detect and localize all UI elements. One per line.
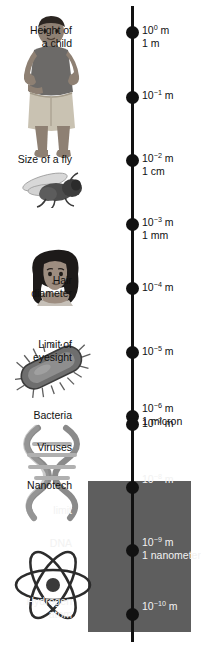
tick-label-left-dna: DNA	[50, 537, 72, 550]
power-label: 10−6 m	[142, 402, 182, 415]
power-label: 10−5 m	[142, 345, 174, 358]
tick-dot	[126, 481, 139, 494]
tick-dot	[126, 418, 139, 431]
tick-label-left-bacteria: Bacteria	[33, 409, 72, 422]
tick-label-left-nanotech-limit: Nanotech limit	[27, 466, 72, 516]
free-label-viruses: Viruses	[37, 441, 72, 454]
tick-dot	[126, 218, 139, 231]
tick-dot	[126, 91, 139, 104]
tick-dot	[126, 154, 139, 167]
length-scale-figure: Height of a child Size of a fly Hair dia…	[0, 0, 201, 648]
tick-dot	[126, 544, 139, 557]
tick-label-right-1e-7: 10−7 m	[142, 417, 174, 430]
tick-label-left-limit-of-eyesight: Limit of eyesight	[33, 338, 72, 363]
tick-label-right-1e-5: 10−5 m	[142, 345, 174, 358]
power-label: 10−1 m	[142, 89, 174, 102]
secondary-label: 1 nanometer	[142, 549, 201, 562]
power-label: 10−7 m	[142, 417, 174, 430]
tick-dot	[126, 346, 139, 359]
fly-photo	[18, 168, 90, 208]
tick-label-right-1e-10: 10−10 m	[142, 600, 178, 613]
power-label: 10−2 m	[142, 152, 174, 165]
tick-label-right-1e-1: 10−1 m	[142, 89, 174, 102]
tick-dot	[126, 26, 139, 39]
tick-label-right-1e-3: 10−3 m 1 mm	[142, 216, 174, 242]
secondary-label: 1 mm	[142, 229, 174, 242]
power-label: 10−3 m	[142, 216, 174, 229]
secondary-label: 1 cm	[142, 165, 174, 178]
power-label: 10−8 m	[142, 473, 174, 486]
tick-label-right-1e-9: 10−9 m 1 nanometer	[142, 536, 201, 562]
power-label: 100 m	[142, 24, 169, 37]
power-label: 10−10 m	[142, 600, 178, 613]
tick-label-left-hydrogen-atom: Hydrogen atom	[26, 595, 72, 620]
tick-dot	[126, 282, 139, 295]
tick-label-right-1e-2: 10−2 m 1 cm	[142, 152, 174, 178]
secondary-label: 1 m	[142, 37, 169, 50]
tick-label-left-height-of-a-child: Height of a child	[30, 24, 72, 49]
tick-dot	[126, 608, 139, 621]
tick-label-right-1e0: 100 m 1 m	[142, 24, 169, 50]
tick-label-right-1e-4: 10−4 m	[142, 281, 174, 294]
power-label: 10−9 m	[142, 536, 201, 549]
power-label: 10−4 m	[142, 281, 174, 294]
tick-label-left-size-of-a-fly: Size of a fly	[18, 153, 72, 166]
tick-label-left-hair-diameter: Hair diameter	[31, 274, 72, 299]
tick-label-right-1e-8: 10−8 m	[142, 473, 174, 486]
